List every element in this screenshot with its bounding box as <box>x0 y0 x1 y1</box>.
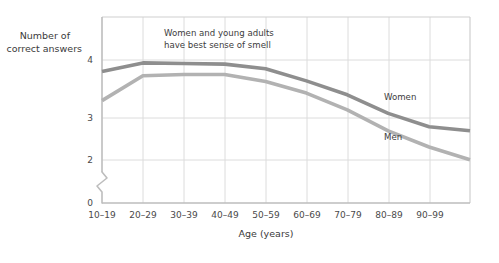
y-tick-label-4: 4 <box>87 55 93 65</box>
x-tick-label-10-19: 10–19 <box>88 210 116 220</box>
x-tick-label-70-79: 70–79 <box>334 210 362 220</box>
y-axis-title-line1: Number of <box>20 30 71 41</box>
x-tick-label-40-49: 40–49 <box>211 210 239 220</box>
x-tick-label-30-39: 30–39 <box>170 210 198 220</box>
series-label-women: Women <box>384 92 416 102</box>
y-tick-label-2: 2 <box>87 155 93 165</box>
x-tick-label-90-99: 90–99 <box>416 210 444 220</box>
chart-figure: Number of correct answers 4 3 2 0 10–19 … <box>0 0 499 263</box>
x-tick-label-50-59: 50–59 <box>252 210 280 220</box>
y-tick-label-0: 0 <box>87 198 93 208</box>
y-axis-title-line2: correct answers <box>6 43 82 54</box>
x-tick-label-60-69: 60–69 <box>293 210 321 220</box>
x-axis-title: Age (years) <box>239 228 294 239</box>
series-label-men: Men <box>384 132 402 142</box>
annotation-insight-line1: Women and young adults <box>164 28 274 38</box>
plot-area-background <box>102 17 470 203</box>
x-tick-label-80-89: 80–89 <box>375 210 403 220</box>
annotation-insight-line2: have best sense of smell <box>164 40 271 50</box>
line-chart: Number of correct answers 4 3 2 0 10–19 … <box>0 0 499 263</box>
y-tick-label-3: 3 <box>87 113 93 123</box>
x-tick-label-20-29: 20–29 <box>129 210 157 220</box>
